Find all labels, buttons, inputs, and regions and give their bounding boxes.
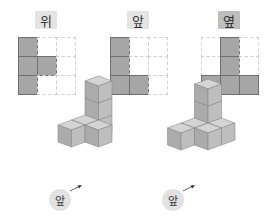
front-arrow-right-icon [183, 185, 195, 191]
front-arrow-left-icon [70, 185, 82, 191]
cube [195, 123, 222, 150]
cube [195, 79, 222, 106]
structure-left [58, 76, 112, 147]
cube [85, 76, 112, 103]
isometric-structures [0, 0, 276, 220]
front-label-right: 앞 [162, 189, 184, 211]
cube [85, 120, 112, 147]
structure-right [168, 79, 236, 150]
front-label-left: 앞 [49, 189, 71, 211]
cube [168, 123, 195, 150]
cube [58, 120, 85, 147]
